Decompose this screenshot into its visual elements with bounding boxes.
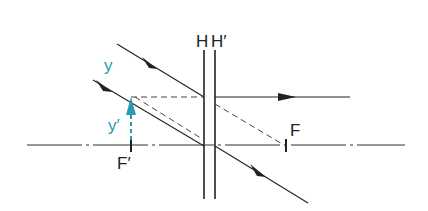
incoming-ray-lower	[93, 80, 204, 146]
label-F: F	[290, 122, 300, 139]
label-H: H	[196, 33, 208, 50]
incoming-ray-upper	[117, 44, 204, 97]
object-arrow-head-icon	[126, 97, 136, 115]
label-y-prime: y′	[108, 117, 120, 134]
label-F-prime: F′	[117, 155, 131, 172]
arrow-head-icon	[278, 93, 296, 101]
construction-line-diagonal-right	[215, 104, 284, 145]
label-H-prime: H′	[211, 33, 226, 50]
construction-line-diagonal-left	[135, 97, 204, 140]
label-y: y	[104, 57, 113, 74]
arrow-head-icon	[250, 164, 266, 177]
